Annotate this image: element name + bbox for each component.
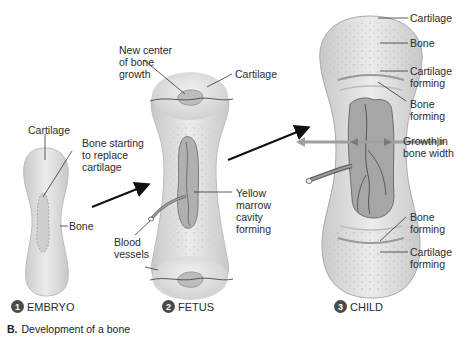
figure-caption: B.Development of a bone	[7, 323, 130, 335]
child-bone-forming-top-label-1: Bone	[410, 98, 435, 110]
stage-name: FETUS	[178, 301, 214, 313]
embryo-bone-replacing-label-1: Bone starting	[82, 137, 144, 149]
fetus-new-center-label-1: New center	[119, 44, 172, 56]
child-cartilage-forming-bottom-label-2: forming	[410, 258, 445, 270]
child-bone-forming-bottom-label-1: Bone	[410, 211, 435, 223]
progression-arrow-2	[228, 128, 307, 160]
child-cartilage-label: Cartilage	[410, 12, 452, 24]
child-cartilage-forming-top-label-1: Cartilage	[410, 65, 452, 77]
stage-number-badge: 2	[162, 300, 175, 313]
child-cartilage-forming-top-label-2: forming	[410, 77, 445, 89]
child-cartilage-forming-bottom-label-1: Cartilage	[410, 246, 452, 258]
fetus-cartilage-label: Cartilage	[235, 68, 277, 80]
stage-number-badge: 3	[334, 300, 347, 313]
fetus-blood-vessels-label-2: vessels	[114, 248, 149, 260]
embryo-bone-replacing-label-3: cartilage	[82, 161, 122, 173]
stage-name: CHILD	[350, 301, 383, 313]
fetus-bone	[135, 60, 233, 300]
child-growth-width-label-2: bone width	[403, 147, 454, 159]
diagram-illustration	[0, 0, 466, 339]
embryo-bone-label: Bone	[69, 220, 94, 232]
progression-arrow-1	[92, 185, 147, 207]
fetus-new-center-label-2: of bone	[119, 56, 154, 68]
stage-embryo: 1 EMBRYO	[11, 300, 74, 313]
embryo-bone-replacing-label-2: to replace	[82, 149, 128, 161]
child-growth-width-label-1: Growth in	[403, 135, 448, 147]
fetus-yellow-marrow-label-4: forming	[236, 223, 271, 235]
stage-number-badge: 1	[11, 300, 24, 313]
fetus-new-center-label-3: growth	[119, 68, 151, 80]
stage-name: EMBRYO	[27, 301, 74, 313]
fetus-yellow-marrow-label-1: Yellow	[236, 187, 266, 199]
embryo-bone	[24, 134, 72, 296]
fetus-yellow-marrow-label-2: marrow	[236, 199, 271, 211]
bone-development-diagram: Cartilage Bone starting to replace carti…	[0, 0, 466, 339]
child-bone-label: Bone	[410, 37, 435, 49]
fetus-blood-vessels-label-1: Blood	[114, 236, 141, 248]
embryo-cartilage-label: Cartilage	[28, 124, 70, 136]
stage-fetus: 2 FETUS	[162, 300, 214, 313]
child-bone-forming-top-label-2: forming	[410, 110, 445, 122]
fetus-yellow-marrow-label-3: cavity	[236, 211, 263, 223]
child-bone-forming-bottom-label-2: forming	[410, 223, 445, 235]
caption-text: Development of a bone	[22, 323, 131, 335]
stage-child: 3 CHILD	[334, 300, 383, 313]
caption-letter: B.	[7, 323, 18, 335]
